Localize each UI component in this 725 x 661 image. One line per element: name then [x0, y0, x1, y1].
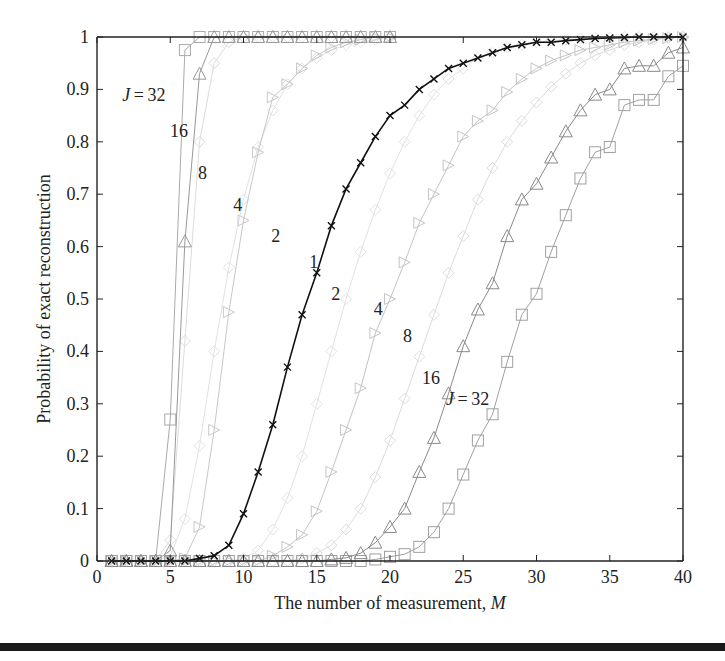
x-marker-icon	[401, 102, 408, 109]
x-marker-icon	[416, 86, 423, 93]
curve-annotation: 1	[309, 252, 318, 272]
y-tick-label: 0.5	[67, 289, 90, 309]
series-j-16-left-	[105, 31, 396, 567]
series-line	[112, 47, 683, 561]
series-j-2-right-	[106, 32, 688, 567]
x-tick-label: 20	[381, 567, 399, 587]
series-line	[112, 37, 390, 561]
series-line	[112, 37, 683, 561]
y-tick-label: 0.3	[67, 394, 90, 414]
series-line	[112, 37, 390, 561]
x-marker-icon	[240, 510, 247, 517]
series-line	[112, 66, 683, 561]
series-j-4-right-	[106, 32, 688, 567]
x-marker-icon	[343, 185, 350, 192]
series-line	[112, 37, 390, 561]
x-tick-label: 35	[601, 567, 619, 587]
x-marker-icon	[430, 75, 437, 82]
curve-annotation: J = 32	[122, 85, 165, 105]
y-tick-label: 0.7	[67, 184, 90, 204]
x-marker-icon	[372, 133, 379, 140]
axes: 051015202530354000.10.20.30.40.50.60.70.…	[34, 27, 692, 613]
curve-annotation: 8	[403, 326, 412, 346]
y-tick-label: 0	[80, 551, 89, 571]
x-tick-label: 30	[528, 567, 546, 587]
series-line	[112, 37, 683, 561]
page-divider	[0, 643, 725, 651]
series-line	[112, 37, 683, 561]
x-marker-icon	[489, 49, 496, 56]
plot-canvas: 051015202530354000.10.20.30.40.50.60.70.…	[0, 0, 725, 661]
series-j-32-right-	[106, 60, 688, 566]
y-tick-label: 1	[80, 27, 89, 47]
x-marker-icon	[225, 542, 232, 549]
chart: 051015202530354000.10.20.30.40.50.60.70.…	[0, 0, 725, 661]
series-line	[112, 37, 390, 561]
curve-annotation: J = 32	[446, 389, 489, 409]
y-tick-label: 0.4	[67, 341, 90, 361]
x-tick-label: 40	[674, 567, 692, 587]
x-tick-label: 25	[454, 567, 472, 587]
curve-annotation: 16	[422, 368, 440, 388]
y-tick-label: 0.2	[67, 446, 90, 466]
x-axis-label: The number of measurement, M	[274, 593, 506, 613]
x-tick-label: 15	[308, 567, 326, 587]
y-tick-label: 0.1	[67, 499, 90, 519]
x-tick-label: 10	[235, 567, 253, 587]
y-tick-label: 0.9	[67, 79, 90, 99]
x-tick-label: 5	[166, 567, 175, 587]
y-tick-label: 0.8	[67, 132, 90, 152]
series-line	[112, 37, 683, 561]
x-marker-icon	[445, 65, 452, 72]
curve-annotation: 8	[198, 163, 207, 183]
x-axis-variable: M	[490, 593, 507, 613]
series-line	[112, 37, 390, 561]
y-tick-label: 0.6	[67, 237, 90, 257]
series-j-16-right-	[105, 41, 689, 567]
x-marker-icon	[474, 54, 481, 61]
x-tick-label: 0	[93, 567, 102, 587]
x-marker-icon	[357, 159, 364, 166]
curve-annotation: 2	[271, 226, 280, 246]
curve-annotation: 4	[374, 299, 383, 319]
curve-annotation: 2	[331, 284, 340, 304]
x-marker-icon	[387, 112, 394, 119]
curve-annotation: 4	[233, 195, 242, 215]
x-marker-icon	[460, 60, 467, 67]
y-axis-label: Probability of exact reconstruction	[34, 174, 54, 423]
curve-annotation: 16	[170, 121, 188, 141]
series-j-8-right-	[106, 32, 688, 567]
series-j-1	[108, 34, 686, 565]
